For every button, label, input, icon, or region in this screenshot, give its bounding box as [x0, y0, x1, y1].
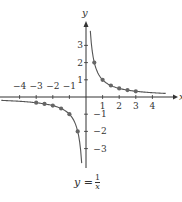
data-point	[76, 129, 80, 133]
fraction-denominator: x	[95, 182, 100, 191]
x-tick-label: −4	[13, 81, 27, 91]
x-tick-label: −3	[30, 81, 44, 91]
data-point	[59, 106, 63, 110]
x-tick-label: 3	[133, 101, 139, 111]
y-axis-label: y	[81, 7, 88, 18]
y-tick-label: −3	[93, 144, 107, 154]
y-tick-label: 3	[77, 40, 83, 50]
data-point	[134, 89, 138, 93]
data-point	[101, 78, 105, 82]
curve-positive-branch	[90, 31, 165, 94]
fraction-numerator: 1	[95, 174, 100, 182]
data-point	[125, 88, 129, 92]
x-axis-label: x	[179, 91, 182, 102]
y-tick-label: 1	[77, 75, 83, 85]
curve-negative-branch	[1, 100, 81, 163]
y-axis-arrow-icon	[84, 21, 89, 27]
axis-labels: −4−3−2−11234−3−2−1123xy	[13, 7, 182, 154]
equation-caption: y = 1 x	[74, 174, 100, 191]
data-point	[109, 83, 113, 87]
data-point	[42, 102, 46, 106]
y-tick-label: −2	[93, 126, 106, 136]
y-tick-label: 2	[77, 58, 83, 68]
x-axis-arrow-icon	[173, 95, 178, 100]
function-graph: −4−3−2−11234−3−2−1123xy	[0, 0, 182, 202]
data-point	[34, 101, 38, 105]
fraction: 1 x	[95, 174, 100, 191]
axes	[0, 21, 178, 168]
data-point	[51, 104, 55, 108]
data-point	[67, 112, 71, 116]
y-tick-label: −1	[93, 109, 106, 119]
data-point	[92, 61, 96, 65]
caption-lhs: y =	[74, 176, 93, 189]
x-tick-label: −1	[63, 81, 76, 91]
x-tick-label: 4	[150, 101, 156, 111]
x-tick-label: −2	[46, 81, 59, 91]
data-point	[117, 86, 121, 90]
x-tick-label: 2	[116, 101, 122, 111]
